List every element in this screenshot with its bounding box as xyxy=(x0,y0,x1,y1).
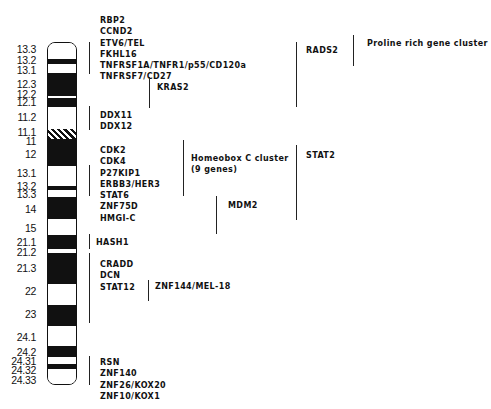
band-12 xyxy=(48,144,76,166)
gene-label: KRAS2 xyxy=(157,82,189,93)
gene-label: P27KIP1 xyxy=(100,168,160,179)
gene-label: DDX11 xyxy=(100,110,133,121)
group-znf144: ZNF144/MEL-18 xyxy=(155,281,231,292)
gene-label: ZNF140 xyxy=(100,368,166,379)
band-label: 23 xyxy=(0,309,36,320)
gene-label: ZNF10/KOX1 xyxy=(100,391,166,402)
gene-label: ZNF75D xyxy=(100,201,160,212)
band-label: 14 xyxy=(0,204,36,215)
gene-label: STAT2 xyxy=(306,150,335,161)
band-label: 21.2 xyxy=(0,247,36,258)
bracket-line xyxy=(89,234,90,249)
gene-label: ETV6/TEL xyxy=(100,38,246,49)
bracket-line xyxy=(296,42,297,107)
gene-label: STAT12 xyxy=(100,282,135,293)
gene-label: DDX12 xyxy=(100,121,133,132)
bracket-line xyxy=(216,196,217,234)
group-rads2: RADS2 xyxy=(306,45,338,56)
band-14 xyxy=(48,197,76,219)
gene-label: CDK4 xyxy=(100,156,160,167)
gene-label: RSN xyxy=(100,357,166,368)
gene-label: HASH1 xyxy=(96,237,129,248)
group-ddx: DDX11DDX12 xyxy=(100,110,133,133)
band-13-3 xyxy=(48,190,76,197)
group-mdm2: MDM2 xyxy=(228,200,258,211)
band-label: 21.3 xyxy=(0,263,36,274)
gene-label: TNFRSF1A/TNFR1/p55/CD120a xyxy=(100,60,246,71)
gene-label: ZNF144/MEL-18 xyxy=(155,281,231,292)
bracket-line xyxy=(89,165,90,196)
band-23 xyxy=(48,305,76,326)
gene-label: Proline rich gene cluster xyxy=(367,38,488,49)
gene-label: CCND2 xyxy=(100,26,246,37)
gene-label: ERBB3/HER3 xyxy=(100,179,160,190)
gene-label: DCN xyxy=(100,270,135,281)
band-13-1 xyxy=(48,166,76,186)
band-22 xyxy=(48,284,76,305)
bracket-line xyxy=(296,145,297,220)
band-15 xyxy=(48,219,76,235)
bracket-line xyxy=(148,280,149,301)
group-kras2: KRAS2 xyxy=(157,82,189,93)
gene-label: (9 genes) xyxy=(191,164,289,175)
band-label: 11.2 xyxy=(0,112,36,123)
band-12-2 xyxy=(48,86,76,96)
band-13-3 xyxy=(48,43,76,59)
band-24-31 xyxy=(48,357,76,364)
group-12q13: CDK2CDK4P27KIP1ERBB3/HER3STAT6ZNF75DHMGI… xyxy=(100,145,160,224)
group-hash1: HASH1 xyxy=(96,237,129,248)
band-label: 15 xyxy=(0,223,36,234)
bracket-line xyxy=(89,356,90,385)
group-stat2: STAT2 xyxy=(306,150,335,161)
group-12q22: CRADDDCNSTAT12 xyxy=(100,259,135,293)
chromosome-12 xyxy=(47,42,77,385)
band-label: 11 xyxy=(0,136,36,147)
band-11-1 xyxy=(48,129,76,139)
bracket-line xyxy=(89,106,90,130)
band-11-2 xyxy=(48,107,76,129)
gene-label: Homeobox C cluster xyxy=(191,153,289,164)
band-24-2 xyxy=(48,346,76,357)
band-label: 22 xyxy=(0,286,36,297)
band-12-3 xyxy=(48,73,76,86)
gene-label: CRADD xyxy=(100,259,135,270)
band-21-3 xyxy=(48,253,76,284)
band-label: 13.3 xyxy=(0,44,36,55)
group-12q24: RSNZNF140ZNF26/KOX20ZNF10/KOX1 xyxy=(100,357,166,402)
bracket-line xyxy=(353,35,354,66)
band-24-1 xyxy=(48,326,76,346)
gene-label: RADS2 xyxy=(306,45,338,56)
bracket-line xyxy=(183,140,184,196)
chromosome-ideogram-figure: 13.313.213.112.312.212.111.211.1111213.1… xyxy=(0,0,491,409)
band-label: 24.33 xyxy=(0,375,36,386)
band-label: 13.3 xyxy=(0,189,36,200)
group-proline: Proline rich gene cluster xyxy=(367,38,488,49)
bracket-line xyxy=(149,77,150,108)
bracket-line xyxy=(89,253,90,323)
bracket-line xyxy=(89,42,90,74)
band-label: 12 xyxy=(0,149,36,160)
gene-label: ZNF26/KOX20 xyxy=(100,380,166,391)
band-21-1 xyxy=(48,235,76,249)
gene-label: HMGI-C xyxy=(100,213,160,224)
group-homeobox: Homeobox C cluster(9 genes) xyxy=(191,153,289,176)
band-13-1 xyxy=(48,64,76,73)
gene-label: FKHL16 xyxy=(100,49,246,60)
band-24-33 xyxy=(48,369,76,385)
gene-label: RBP2 xyxy=(100,15,246,26)
gene-label: MDM2 xyxy=(228,200,258,211)
band-label: 13.1 xyxy=(0,168,36,179)
gene-label: STAT6 xyxy=(100,190,160,201)
band-label: 13.1 xyxy=(0,65,36,76)
gene-label: CDK2 xyxy=(100,145,160,156)
group-12p13: RBP2CCND2ETV6/TELFKHL16TNFRSF1A/TNFR1/p5… xyxy=(100,15,246,83)
band-12-1 xyxy=(48,98,76,107)
band-label: 24.1 xyxy=(0,332,36,343)
band-label: 12.1 xyxy=(0,97,36,108)
